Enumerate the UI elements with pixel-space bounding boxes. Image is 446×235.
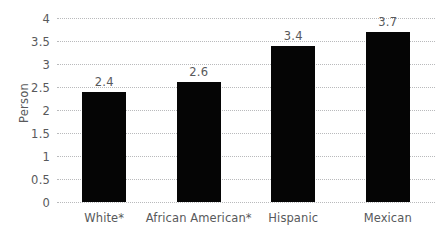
bar[interactable] (271, 46, 315, 202)
bar[interactable] (82, 92, 126, 202)
gridline: 0 (57, 202, 435, 203)
bar-value-label: 2.4 (95, 75, 114, 89)
bar[interactable] (177, 82, 221, 202)
bar-value-label: 3.7 (378, 15, 397, 29)
bar-chart: Person 00.511.522.533.54 2.4White*2.6Afr… (0, 0, 446, 235)
bar-group: 3.7Mexican (366, 18, 410, 202)
bar-value-label: 2.6 (189, 65, 208, 79)
bar-group: 2.6African American* (177, 18, 221, 202)
x-axis-category-label: Mexican (364, 211, 412, 225)
y-axis-tick-label: 1.5 (31, 127, 50, 141)
bar-value-label: 3.4 (284, 29, 303, 43)
x-axis-category-label: African American* (146, 211, 252, 225)
y-axis-tick-label: 2.5 (31, 81, 50, 95)
bar-group: 3.4Hispanic (271, 18, 315, 202)
bar-group: 2.4White* (82, 18, 126, 202)
y-axis-tick-label: 0 (42, 196, 50, 210)
y-axis-tick-label: 0.5 (31, 173, 50, 187)
y-axis-tick-label: 1 (42, 150, 50, 164)
y-axis-tick-label: 3.5 (31, 35, 50, 49)
bar[interactable] (366, 32, 410, 202)
plot-area: 00.511.522.533.54 2.4White*2.6African Am… (57, 18, 435, 202)
x-axis-category-label: Hispanic (268, 211, 318, 225)
x-axis-category-label: White* (84, 211, 124, 225)
y-axis-tick-label: 2 (42, 104, 50, 118)
y-axis-title: Person (17, 58, 31, 148)
y-axis-tick-label: 4 (42, 12, 50, 26)
y-axis-tick-label: 3 (42, 58, 50, 72)
bars-layer: 2.4White*2.6African American*3.4Hispanic… (57, 18, 435, 202)
